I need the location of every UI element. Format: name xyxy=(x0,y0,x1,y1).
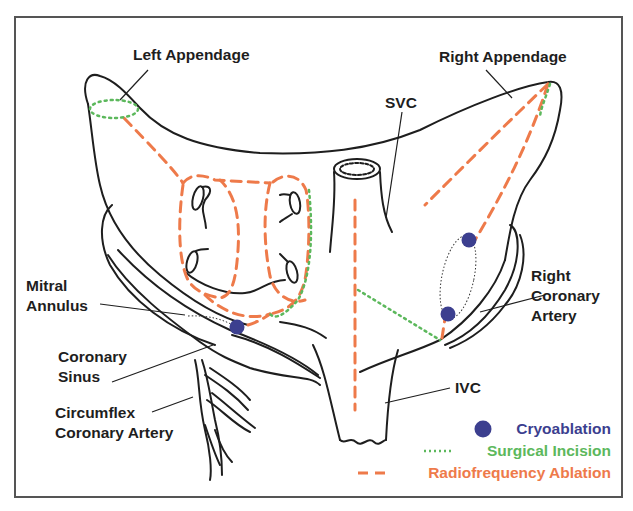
cryo-point-mitral xyxy=(230,320,245,335)
pulmonary-veins xyxy=(184,185,302,293)
rf-ablation-lines xyxy=(124,84,548,410)
label-coronary-sinus: Coronary Sinus xyxy=(58,347,127,387)
cryoablation-points xyxy=(230,233,477,335)
cryo-point-right-lower xyxy=(441,307,456,322)
label-right-appendage: Right Appendage xyxy=(439,47,567,67)
label-left-appendage: Left Appendage xyxy=(133,45,250,65)
legend-cryo-icon xyxy=(475,421,492,438)
legend-item-radiofrequency-ablation: Radiofrequency Ablation xyxy=(428,463,611,483)
label-mitral-annulus: Mitral Annulus xyxy=(26,276,88,316)
label-right-coronary-artery: Right Coronary Artery xyxy=(531,266,600,326)
label-circumflex-coronary-artery: Circumflex Coronary Artery xyxy=(55,403,173,443)
legend-item-surgical-incision: Surgical Incision xyxy=(487,441,611,461)
label-svc: SVC xyxy=(385,93,417,113)
label-ivc: IVC xyxy=(455,378,481,398)
cryo-point-right-upper xyxy=(462,233,477,248)
leader-lines xyxy=(100,70,545,412)
legend-item-cryoablation: Cryoablation xyxy=(516,419,611,439)
circumflex-branches xyxy=(195,360,255,480)
